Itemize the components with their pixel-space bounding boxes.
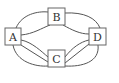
edge-a-c-3 (13, 45, 48, 66)
node-d: D (89, 28, 106, 45)
graph-diagram: A B C D (0, 0, 119, 83)
edge-a-b-2 (21, 25, 50, 35)
node-c-label: C (52, 53, 60, 66)
node-b-label: B (52, 11, 60, 24)
edge-a-b-1 (16, 12, 48, 28)
node-a: A (5, 28, 21, 45)
node-a-label: A (8, 31, 18, 44)
edge-c-d-3 (65, 45, 98, 66)
edge-c-d-1 (65, 40, 89, 57)
edge-a-c-1 (21, 40, 48, 57)
node-c: C (48, 50, 65, 67)
edge-b-d-1 (65, 13, 100, 28)
edge-c-d-2 (65, 44, 89, 63)
node-b: B (48, 8, 65, 25)
node-d-label: D (93, 31, 102, 44)
edge-b-d-2 (63, 25, 89, 34)
